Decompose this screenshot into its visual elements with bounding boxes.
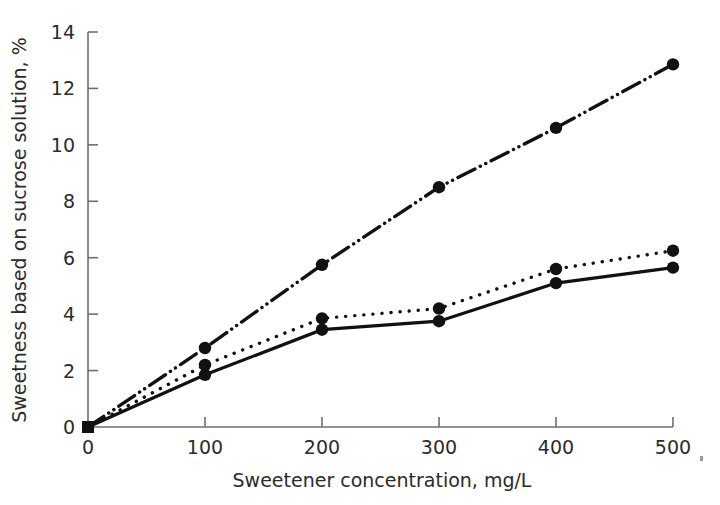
x-axis-tick-labels: 0100200300400500 (82, 436, 691, 458)
x-tick-label: 200 (304, 436, 340, 458)
data-series-layer (88, 64, 673, 427)
data-markers-layer (82, 58, 679, 433)
chart-figure: 02468101214 0100200300400500 Sweetness b… (0, 0, 720, 505)
origin-marker (82, 421, 94, 433)
y-tick-label: 10 (51, 134, 75, 156)
series-dash-dot-dot-marker (433, 181, 445, 193)
y-tick-label: 0 (63, 416, 75, 438)
scan-speck-group (700, 456, 703, 461)
y-tick-label: 2 (63, 360, 75, 382)
y-tick-label: 8 (63, 190, 75, 212)
y-tick-label: 12 (51, 77, 75, 99)
x-tick-label: 100 (187, 436, 223, 458)
y-axis-tick-labels: 02468101214 (51, 21, 75, 438)
series-dash-dot-dot-marker (199, 342, 211, 354)
y-tick-label: 6 (63, 247, 75, 269)
y-tick-label: 4 (63, 303, 75, 325)
x-axis-title: Sweetener concentration, mg/L (233, 469, 532, 491)
y-axis-title: Sweetness based on sucrose solution, % (8, 37, 30, 423)
x-tick-label: 300 (421, 436, 457, 458)
y-axis-ticks (88, 32, 98, 371)
series-dash-dot-dot-marker (667, 58, 679, 70)
series-solid-marker (433, 315, 445, 327)
series-dotted-marker (667, 245, 679, 257)
series-dash-dot-dot-marker (550, 122, 562, 134)
x-tick-label: 500 (655, 436, 691, 458)
series-dash-dot-dot-line (88, 64, 673, 427)
scan-speck (700, 456, 703, 461)
series-dotted-line (88, 251, 673, 427)
x-axis-ticks (205, 417, 673, 427)
series-dotted-marker (550, 263, 562, 275)
line-chart: 02468101214 0100200300400500 Sweetness b… (0, 0, 720, 505)
series-solid-marker (667, 261, 679, 273)
series-solid-line (88, 268, 673, 427)
x-tick-label: 400 (538, 436, 574, 458)
series-dash-dot-dot-marker (316, 259, 328, 271)
series-dotted-marker (316, 312, 328, 324)
x-tick-label: 0 (82, 436, 94, 458)
series-dotted-marker (433, 302, 445, 314)
series-solid-marker (316, 324, 328, 336)
series-solid-marker (550, 277, 562, 289)
y-tick-label: 14 (51, 21, 75, 43)
series-solid-marker (199, 369, 211, 381)
